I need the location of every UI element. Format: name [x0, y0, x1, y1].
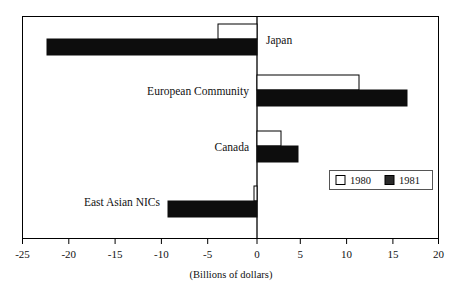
x-tick-label-0: 0	[254, 248, 260, 260]
bar-european-community-1981	[257, 90, 407, 106]
x-tick-label-10: 10	[341, 248, 353, 260]
x-tick-label-5: 5	[298, 248, 304, 260]
bar-japan-1980	[218, 24, 257, 39]
legend-label-1980: 1980	[350, 175, 371, 186]
bar-canada-1981	[257, 146, 298, 162]
legend-swatch-1981	[385, 176, 394, 185]
bar-japan-1981	[47, 39, 257, 55]
x-axis-ticks	[23, 239, 439, 245]
category-label-european-community: European Community	[147, 85, 249, 98]
legend-swatch-1980	[336, 176, 345, 185]
bar-european-community-1980	[257, 75, 359, 90]
x-tick-label--10: -10	[154, 248, 169, 260]
x-axis-title: (Billions of dollars)	[190, 269, 273, 281]
x-tick-label--20: -20	[61, 248, 76, 260]
legend: 1980 1981	[330, 171, 433, 190]
x-tick-label--5: -5	[203, 248, 213, 260]
category-label-east-asian-nics: East Asian NICs	[84, 196, 161, 208]
bar-chart: Japan European Community Canada East Asi…	[0, 0, 461, 294]
bar-east-asian-nics-1981	[168, 201, 257, 217]
x-tick-label-15: 15	[387, 248, 399, 260]
x-tick-label-20: 20	[433, 248, 445, 260]
category-label-japan: Japan	[266, 34, 292, 47]
legend-label-1981: 1981	[399, 175, 420, 186]
x-tick-label--25: -25	[15, 248, 30, 260]
category-label-canada: Canada	[215, 141, 249, 153]
bar-east-asian-nics-1980	[254, 186, 257, 201]
x-tick-label--15: -15	[108, 248, 123, 260]
chart-canvas: Japan European Community Canada East Asi…	[0, 0, 461, 294]
bar-canada-1980	[257, 131, 281, 146]
